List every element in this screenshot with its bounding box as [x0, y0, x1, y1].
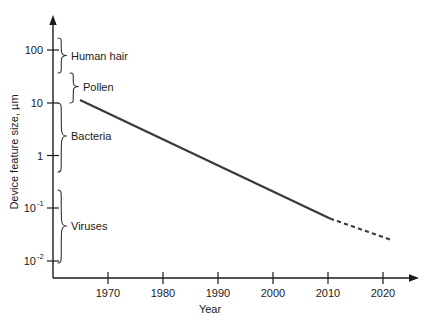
x-tick-label: 1990 — [206, 287, 230, 299]
x-tick-label: 1980 — [151, 287, 175, 299]
y-axis-arrow-icon — [49, 15, 56, 25]
x-axis-title: Year — [199, 303, 222, 315]
annotation-bacteria: Bacteria — [58, 103, 112, 172]
brace-pollen-icon — [70, 73, 79, 103]
data-line-projected — [330, 219, 390, 240]
annotation-viruses: Viruses — [58, 190, 108, 263]
y-tick-label: 10 — [31, 97, 43, 109]
y-tick-label: 100 — [25, 44, 43, 56]
y-tick-label: 10 — [24, 202, 36, 214]
chart-canvas: 100 10 1 10 -1 10 -2 1970 1980 1990 2000… — [0, 0, 435, 323]
annotation-pollen: Pollen — [70, 73, 114, 103]
y-tick-label-exponent: -2 — [37, 252, 44, 261]
data-line-historic — [80, 100, 330, 219]
y-tick-label: 10 — [24, 255, 36, 267]
x-tick-label: 2000 — [261, 287, 285, 299]
y-tick-label: 1 — [37, 150, 43, 162]
y-axis-ticks: 100 10 1 10 -1 10 -2 — [24, 44, 59, 267]
annotation-label-bacteria: Bacteria — [71, 130, 112, 142]
annotation-label-human-hair: Human hair — [71, 50, 128, 62]
y-axis-title: Device feature size, µm — [8, 94, 20, 209]
annotation-label-viruses: Viruses — [71, 220, 108, 232]
x-axis-arrow-icon — [409, 274, 419, 281]
chart-figure: 100 10 1 10 -1 10 -2 1970 1980 1990 2000… — [0, 0, 435, 323]
brace-viruses-icon — [58, 190, 67, 263]
x-tick-label: 2010 — [316, 287, 340, 299]
y-tick-label-exponent: -1 — [37, 199, 44, 208]
annotation-human-hair: Human hair — [58, 38, 128, 73]
x-tick-label: 1970 — [96, 287, 120, 299]
x-axis-ticks: 1970 1980 1990 2000 2010 2020 — [96, 272, 395, 299]
x-tick-label: 2020 — [371, 287, 395, 299]
brace-human-hair-icon — [58, 38, 67, 73]
annotation-label-pollen: Pollen — [83, 81, 114, 93]
data-series-group — [80, 100, 390, 240]
brace-bacteria-icon — [58, 103, 67, 172]
